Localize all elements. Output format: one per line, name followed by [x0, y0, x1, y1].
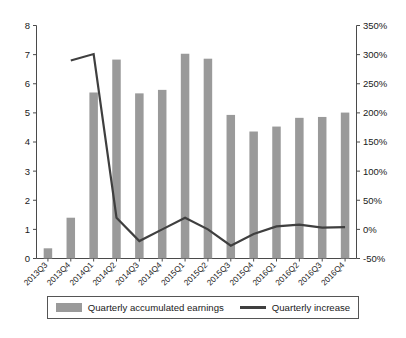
- x-tick-2015Q4: 2015Q4: [228, 260, 255, 287]
- bar-2015Q4: [249, 132, 258, 259]
- left-axis-tick-4: 4: [25, 136, 30, 147]
- x-tick-2015Q2: 2015Q2: [182, 260, 209, 287]
- legend-item-quarterly-increase: Quarterly increase: [240, 302, 350, 313]
- left-axis: 012345678: [25, 20, 37, 264]
- right-axis-tick-1: 0%: [363, 224, 377, 235]
- x-axis-tick-labels: 2013Q32013Q42014Q12014Q22014Q32014Q42015…: [22, 259, 346, 288]
- right-axis-tick-7: 300%: [363, 49, 388, 60]
- bar-2014Q4: [158, 90, 167, 259]
- line-swatch-icon: [240, 306, 266, 309]
- x-tick-2013Q4: 2013Q4: [45, 260, 72, 287]
- left-axis-tick-8: 8: [25, 20, 30, 31]
- left-axis-tick-1: 1: [25, 224, 30, 235]
- bar-2016Q2: [295, 118, 304, 259]
- bar-2016Q3: [318, 117, 327, 259]
- right-axis-tick-2: 50%: [363, 195, 383, 206]
- x-tick-2015Q3: 2015Q3: [205, 260, 232, 287]
- left-axis-tick-2: 2: [25, 195, 30, 206]
- bar-2015Q1: [181, 54, 190, 259]
- left-axis-tick-5: 5: [25, 107, 30, 118]
- bar-series-quarterly-accumulated-earnings: [44, 54, 350, 259]
- bar-2016Q1: [272, 127, 281, 259]
- x-tick-2016Q2: 2016Q2: [274, 260, 301, 287]
- x-tick-2015Q1: 2015Q1: [160, 260, 187, 287]
- left-axis-tick-0: 0: [25, 253, 30, 264]
- bar-2014Q3: [135, 93, 144, 258]
- right-axis-tick-5: 200%: [363, 107, 388, 118]
- right-axis-tick-3: 100%: [363, 166, 388, 177]
- legend-item-quarterly-accumulated-earnings: Quarterly accumulated earnings: [56, 302, 224, 313]
- legend-label-earnings: Quarterly accumulated earnings: [88, 302, 224, 313]
- right-axis-tick-0: -50%: [363, 253, 386, 264]
- left-axis-tick-6: 6: [25, 78, 30, 89]
- left-axis-tick-7: 7: [25, 49, 30, 60]
- bar-2015Q3: [227, 115, 236, 259]
- left-axis-tick-3: 3: [25, 166, 30, 177]
- bar-swatch-icon: [56, 303, 82, 312]
- right-axis-tick-6: 250%: [363, 78, 388, 89]
- chart-plot-area: 012345678 -50%0%50%100%150%200%250%300%3…: [0, 0, 406, 338]
- bar-2016Q4: [341, 113, 350, 259]
- bar-2014Q2: [112, 60, 121, 259]
- right-axis-tick-8: 350%: [363, 20, 388, 31]
- x-tick-2014Q1: 2014Q1: [68, 260, 95, 287]
- x-tick-2014Q3: 2014Q3: [114, 260, 141, 287]
- legend-label-increase: Quarterly increase: [272, 302, 350, 313]
- x-tick-2016Q4: 2016Q4: [320, 260, 347, 287]
- bar-2013Q4: [67, 218, 76, 259]
- bar-2013Q3: [44, 248, 53, 258]
- x-tick-2014Q2: 2014Q2: [91, 260, 118, 287]
- x-tick-2014Q4: 2014Q4: [137, 260, 164, 287]
- x-tick-2013Q3: 2013Q3: [22, 260, 49, 287]
- bar-2014Q1: [89, 92, 98, 258]
- chart-container: 012345678 -50%0%50%100%150%200%250%300%3…: [0, 0, 406, 338]
- right-axis-tick-4: 150%: [363, 136, 388, 147]
- x-tick-2016Q3: 2016Q3: [297, 260, 324, 287]
- chart-legend: Quarterly accumulated earnings Quarterly…: [47, 296, 359, 319]
- x-tick-2016Q1: 2016Q1: [251, 260, 278, 287]
